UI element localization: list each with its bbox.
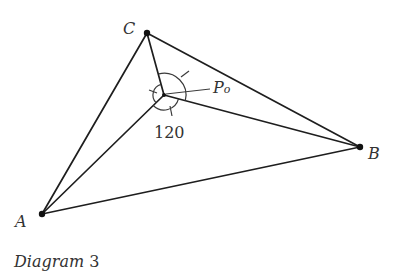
vertex-b-dot [357, 144, 363, 150]
spoke-po-b [164, 95, 360, 147]
label-a: A [15, 214, 27, 230]
spoke-po-a [42, 95, 164, 214]
label-po-subscript: o [224, 83, 231, 96]
caption-word: Diagram [14, 252, 84, 271]
vertex-c-dot [144, 30, 150, 36]
edge-ca [42, 33, 147, 214]
point-po-dot [162, 93, 166, 97]
angle-value-label: 120 [154, 125, 185, 141]
caption-number: 3 [89, 252, 99, 271]
label-b: B [368, 146, 380, 162]
label-po: Po [213, 80, 230, 96]
angle-tick-cpb [181, 71, 189, 77]
triangle-fermat-point-diagram [0, 0, 396, 274]
po-leader-line [166, 89, 210, 94]
edge-ab [42, 147, 360, 214]
diagram-caption: Diagram 3 [14, 254, 99, 270]
label-c: C [123, 21, 135, 37]
vertex-a-dot [39, 211, 45, 217]
spoke-po-c [147, 33, 164, 95]
label-po-main: P [213, 78, 224, 97]
